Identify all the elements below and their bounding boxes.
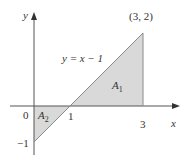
y-axis-label: y bbox=[22, 9, 28, 21]
y-axis-arrow-icon bbox=[31, 12, 37, 20]
endpoint-label: (3, 2) bbox=[129, 10, 153, 23]
y-tick-minus1-label: −1 bbox=[17, 137, 29, 149]
x-tick-3-label: 3 bbox=[140, 118, 146, 130]
x-axis-arrow-icon bbox=[172, 103, 180, 109]
equation-label: y = x − 1 bbox=[61, 52, 103, 64]
area-diagram: y x 0 1 3 −1 y = x − 1 (3, 2) A1 A2 bbox=[0, 0, 188, 160]
x-axis-label: x bbox=[170, 117, 176, 129]
x-tick-1-label: 1 bbox=[68, 110, 74, 122]
origin-label: 0 bbox=[23, 109, 29, 121]
